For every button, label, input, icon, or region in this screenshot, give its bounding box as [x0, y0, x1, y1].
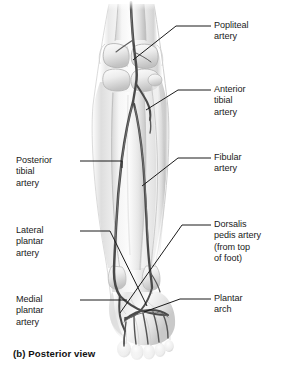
figure-caption: (b) Posterior view — [13, 348, 95, 359]
label-lateral-plantar-artery: Lateral plantar artery — [16, 225, 78, 259]
label-medial-plantar-artery: Medial plantar artery — [16, 294, 78, 328]
label-dorsalis-pedis-artery: Dorsalis pedis artery (from top of foot) — [214, 219, 291, 265]
label-plantar-arch: Plantar arch — [214, 293, 290, 316]
label-anterior-tibial-artery: Anterior tibial artery — [214, 84, 290, 118]
anatomy-figure: Popliteal artery Anterior tibial artery … — [0, 0, 291, 370]
label-fibular-artery: Fibular artery — [214, 152, 290, 175]
label-popliteal-artery: Popliteal artery — [214, 20, 290, 43]
label-posterior-tibial-artery: Posterior tibial artery — [16, 155, 78, 189]
